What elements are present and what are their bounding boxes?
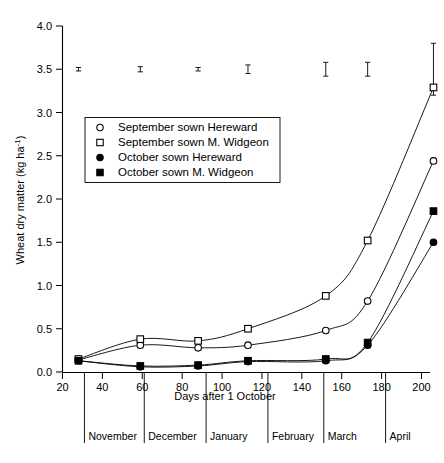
y-tick-label: 2.0 xyxy=(37,193,52,205)
y-tick-label: 3.5 xyxy=(37,63,52,75)
legend-entry-label: September sown M. Widgeon xyxy=(118,136,269,148)
month-label: January xyxy=(210,430,248,442)
data-point-filled-square xyxy=(97,169,103,175)
y-axis-title-tail: ) xyxy=(14,136,26,140)
legend-entry: October sown Hereward xyxy=(97,151,242,163)
data-point-open-square xyxy=(195,338,202,345)
y-tick-label: 3.0 xyxy=(37,107,52,119)
x-tick-label: 20 xyxy=(56,381,68,393)
series-markers xyxy=(75,208,437,369)
x-tick-label: 180 xyxy=(372,381,390,393)
x-tick-label: 60 xyxy=(136,381,148,393)
x-tick-label: 200 xyxy=(412,381,430,393)
data-point-open-circle xyxy=(195,344,202,351)
data-point-open-circle xyxy=(364,298,371,305)
x-axis-title: Days after 1 October xyxy=(174,390,276,402)
legend-entry-label: October sown M. Widgeon xyxy=(118,166,254,178)
y-tick-label: 2.5 xyxy=(37,150,52,162)
wheat-dry-matter-chart: 0.00.51.01.52.02.53.03.54.0 204060801001… xyxy=(0,0,444,463)
data-point-filled-circle xyxy=(97,154,103,160)
data-point-filled-square xyxy=(195,362,202,369)
data-point-filled-circle xyxy=(430,239,437,246)
y-axis-ticks: 0.00.51.01.52.02.53.03.54.0 xyxy=(37,20,63,378)
month-label: February xyxy=(272,430,315,442)
data-point-filled-square xyxy=(322,356,329,363)
series-markers xyxy=(75,239,437,370)
y-tick-label: 0.0 xyxy=(37,366,52,378)
data-point-open-square xyxy=(245,325,252,332)
data-point-filled-square xyxy=(430,208,437,215)
sed-error-bars xyxy=(76,43,436,95)
chart-figure: 0.00.51.01.52.02.53.03.54.0 204060801001… xyxy=(0,0,444,463)
y-tick-label: 4.0 xyxy=(37,20,52,32)
data-point-open-circle xyxy=(430,158,437,165)
y-tick-label: 0.5 xyxy=(37,323,52,335)
month-label: April xyxy=(390,430,411,442)
legend-entry-label: September sown Hereward xyxy=(118,121,257,133)
data-point-open-square xyxy=(97,139,103,145)
svg-text:Wheat dry matter (kg ha-1): Wheat dry matter (kg ha-1) xyxy=(13,136,26,265)
y-axis-title-main: Wheat dry matter (kg ha xyxy=(14,146,26,265)
series xyxy=(78,161,433,360)
series-line xyxy=(78,242,433,367)
data-point-open-square xyxy=(322,293,329,300)
axes xyxy=(63,26,431,373)
x-tick-label: 140 xyxy=(293,381,311,393)
legend: September sown HerewardSeptember sown M.… xyxy=(85,118,280,183)
data-point-filled-square xyxy=(245,357,252,364)
data-point-open-square xyxy=(364,237,371,244)
legend-entry-label: October sown Hereward xyxy=(118,151,242,163)
legend-entry: October sown M. Widgeon xyxy=(97,166,254,178)
legend-entry: September sown Hereward xyxy=(97,121,258,133)
series xyxy=(78,242,433,367)
series-line xyxy=(78,161,433,360)
data-point-open-square xyxy=(430,84,437,91)
data-point-open-circle xyxy=(97,124,103,130)
month-bands: NovemberDecemberJanuaryFebruaryMarchApri… xyxy=(84,373,410,444)
data-point-filled-square xyxy=(364,339,371,346)
data-point-open-circle xyxy=(322,327,329,334)
series-line xyxy=(78,211,433,366)
series xyxy=(78,211,433,366)
data-point-filled-square xyxy=(137,363,144,370)
month-label: March xyxy=(328,430,357,442)
y-tick-label: 1.0 xyxy=(37,280,52,292)
data-point-open-square xyxy=(137,336,144,343)
data-point-open-circle xyxy=(245,342,252,349)
legend-entry: September sown M. Widgeon xyxy=(97,136,269,148)
x-tick-label: 160 xyxy=(333,381,351,393)
x-tick-label: 40 xyxy=(96,381,108,393)
data-point-filled-square xyxy=(75,357,82,364)
series-markers xyxy=(75,158,437,364)
month-label: December xyxy=(148,430,197,442)
y-axis-title: Wheat dry matter (kg ha-1) xyxy=(13,136,26,265)
month-label: November xyxy=(88,430,137,442)
y-tick-label: 1.5 xyxy=(37,236,52,248)
